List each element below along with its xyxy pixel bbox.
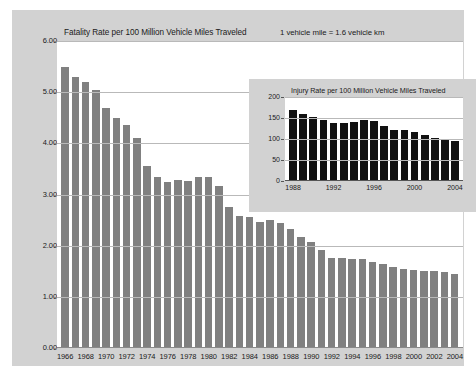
- x-axis-tick-label: 1976: [160, 352, 176, 361]
- x-axis-tick-label: 1988: [283, 352, 299, 361]
- bar: [340, 123, 348, 181]
- chart-panel: Fatality Rate per 100 Million Vehicle Mi…: [12, 10, 464, 366]
- gridline: [57, 246, 463, 247]
- x-axis-tick-label: 1966: [57, 352, 73, 361]
- bar: [113, 118, 120, 348]
- bar: [164, 182, 171, 348]
- x-axis-tick-label: 1986: [262, 352, 278, 361]
- bar: [441, 272, 448, 348]
- inset-chart-title: Injury Rate per 100 Million Vehicle Mile…: [291, 86, 446, 95]
- y-axis-tick-label: 3.00: [17, 191, 57, 199]
- main-chart-title: Fatality Rate per 100 Million Vehicle Mi…: [64, 28, 247, 37]
- bar: [379, 264, 386, 348]
- bar: [184, 181, 191, 348]
- y-axis-tick-label: 150: [252, 114, 280, 122]
- x-axis-tick-label: 2004: [447, 352, 463, 361]
- bar: [451, 141, 459, 181]
- y-axis-tick: [281, 139, 284, 140]
- y-axis-tick-label: 200: [252, 93, 280, 101]
- bar: [256, 222, 263, 348]
- bar: [299, 114, 307, 181]
- y-axis-tick-label: 2.00: [17, 242, 57, 250]
- inset-chart: Injury Rate per 100 Million Vehicle Mile…: [249, 79, 476, 212]
- x-axis-tick-label: 1992: [324, 352, 340, 361]
- x-axis-tick-label: 1980: [201, 352, 217, 361]
- y-axis-tick-label: 0: [252, 177, 280, 185]
- gridline: [285, 97, 463, 98]
- bar: [348, 259, 355, 348]
- bar: [289, 110, 297, 181]
- bar: [338, 258, 345, 348]
- y-axis-tick-label: 1.00: [17, 293, 57, 301]
- y-axis-tick: [281, 118, 284, 119]
- bar: [133, 138, 140, 348]
- bar: [421, 135, 429, 181]
- bar: [389, 267, 396, 348]
- bar: [309, 117, 317, 181]
- x-axis-tick-label: 1974: [139, 352, 155, 361]
- main-y-axis: 0.001.002.003.004.005.006.00: [12, 41, 57, 348]
- x-axis-tick-label: 1984: [242, 352, 258, 361]
- y-axis-tick: [54, 348, 57, 349]
- bar: [123, 125, 130, 348]
- bar: [297, 237, 304, 348]
- bar: [287, 229, 294, 348]
- gridline: [285, 160, 463, 161]
- bar: [328, 258, 335, 348]
- inset-x-axis-line: [285, 180, 463, 181]
- bar: [369, 262, 376, 348]
- y-axis-tick-label: 50: [252, 156, 280, 164]
- x-axis-tick-label: 1978: [180, 352, 196, 361]
- bar: [380, 126, 388, 181]
- x-axis-tick-label: 1996: [365, 352, 381, 361]
- x-axis-tick-label: 2002: [426, 352, 442, 361]
- bar: [451, 274, 458, 348]
- x-axis-tick-label: 1998: [385, 352, 401, 361]
- bar: [61, 67, 68, 348]
- bar: [401, 130, 409, 181]
- unit-conversion-note: 1 vehicle mile = 1.6 vehicle km: [280, 28, 384, 37]
- bar: [430, 271, 437, 348]
- bar: [246, 217, 253, 348]
- inset-plot-area: [285, 97, 463, 181]
- bar: [215, 186, 222, 348]
- x-axis-tick-label: 1990: [303, 352, 319, 361]
- bar: [318, 250, 325, 348]
- x-axis-tick-label: 1972: [119, 352, 135, 361]
- main-x-axis-labels: 1966196819701972197419761978198019821984…: [57, 351, 463, 365]
- x-axis-tick-label: 1968: [77, 352, 93, 361]
- gridline: [57, 297, 463, 298]
- bar: [277, 223, 284, 348]
- bar: [320, 120, 328, 181]
- y-axis-tick-label: 4.00: [17, 139, 57, 147]
- x-axis-tick-label: 2000: [406, 352, 422, 361]
- gridline: [285, 118, 463, 119]
- y-axis-tick-label: 100: [252, 135, 280, 143]
- bar: [330, 123, 338, 181]
- bar: [359, 259, 366, 348]
- bar: [174, 180, 181, 348]
- y-axis-tick: [281, 181, 284, 182]
- bar: [307, 242, 314, 348]
- y-axis-tick: [281, 97, 284, 98]
- y-axis-tick-label: 5.00: [17, 88, 57, 96]
- inset-y-axis: 050100150200: [249, 97, 285, 181]
- bar: [420, 271, 427, 348]
- bar: [400, 269, 407, 348]
- bar: [236, 216, 243, 348]
- bar: [266, 220, 273, 348]
- y-axis-tick-label: 0.00: [17, 344, 57, 352]
- y-axis-tick: [281, 160, 284, 161]
- bar: [225, 207, 232, 348]
- x-axis-tick-label: 1988: [285, 184, 301, 191]
- x-axis-tick-label: 1970: [98, 352, 114, 361]
- gridline: [57, 41, 463, 42]
- x-axis-tick-label: 2000: [407, 184, 423, 191]
- x-axis-tick-label: 1996: [366, 184, 382, 191]
- x-axis-tick-label: 1992: [326, 184, 342, 191]
- bar: [360, 120, 368, 181]
- x-axis-tick-label: 1982: [221, 352, 237, 361]
- bar: [195, 177, 202, 348]
- bar: [370, 121, 378, 181]
- bar: [154, 177, 161, 348]
